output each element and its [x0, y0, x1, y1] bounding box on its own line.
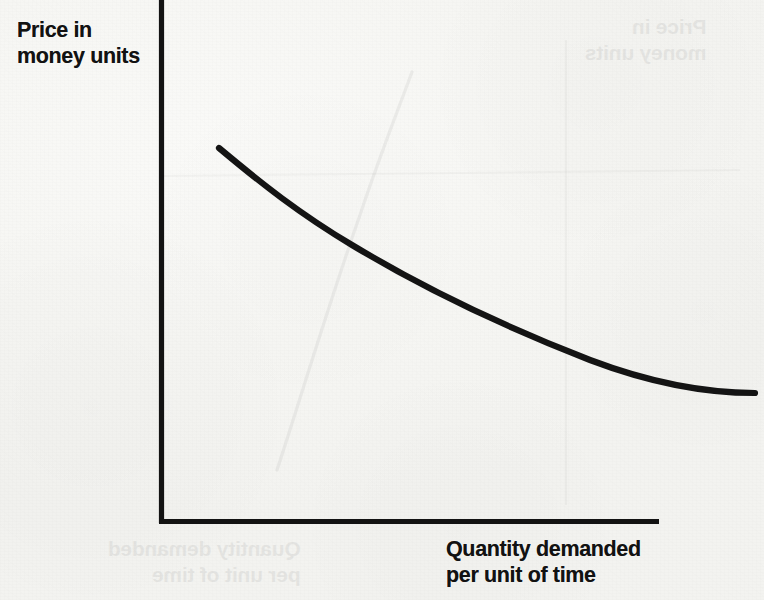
demand-curve-figure: Price in money units Quantity demanded p… — [0, 0, 764, 600]
figure-canvas — [0, 0, 764, 600]
demand-curve — [219, 148, 755, 393]
y-axis-label: Price in money units — [17, 18, 140, 69]
x-axis-label: Quantity demanded per unit of time — [446, 537, 641, 588]
